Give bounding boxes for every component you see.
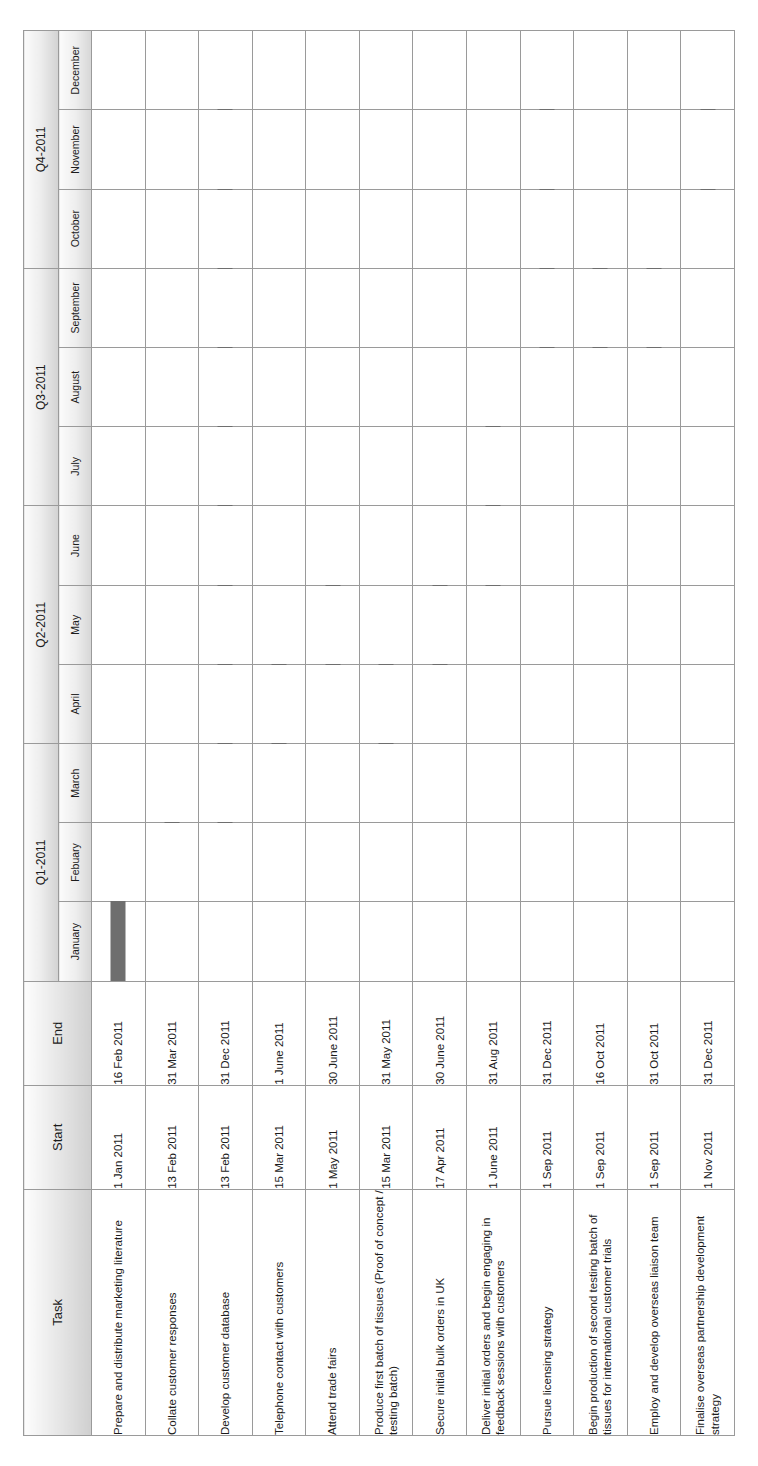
month-header-april: April	[59, 664, 92, 743]
table-row: Prepare and distribute marketing literat…	[92, 31, 146, 1436]
timeline-cell	[145, 902, 199, 981]
timeline-cell	[467, 189, 521, 268]
timeline-cell	[199, 268, 253, 347]
timeline-cell	[145, 427, 199, 506]
cell-task-name: Collate customer responses	[145, 1189, 199, 1435]
timeline-cell	[199, 664, 253, 743]
timeline-cell	[92, 744, 146, 823]
gantt-chart-table: Task Start End Q1-2011Q2-2011Q3-2011Q4-2…	[23, 30, 735, 1436]
timeline-cell	[199, 823, 253, 902]
month-header-march: March	[59, 744, 92, 823]
timeline-cell	[306, 585, 360, 664]
quarter-header-2: Q2-2011	[24, 506, 59, 744]
timeline-cell	[252, 189, 306, 268]
timeline-cell	[413, 823, 467, 902]
month-header-november: November	[59, 110, 92, 189]
timeline-cell	[627, 902, 681, 981]
timeline-cell	[627, 189, 681, 268]
timeline-cell	[627, 348, 681, 427]
timeline-cell	[252, 902, 306, 981]
timeline-cell	[252, 506, 306, 585]
month-header-june: June	[59, 506, 92, 585]
table-row: Begin production of second testing batch…	[574, 31, 628, 1436]
timeline-cell	[199, 189, 253, 268]
timeline-cell	[92, 585, 146, 664]
timeline-cell	[252, 31, 306, 110]
timeline-cell	[252, 744, 306, 823]
timeline-cell	[520, 31, 574, 110]
timeline-cell	[92, 189, 146, 268]
timeline-cell	[92, 902, 146, 981]
timeline-cell	[627, 268, 681, 347]
timeline-cell	[413, 110, 467, 189]
timeline-cell	[252, 427, 306, 506]
timeline-cell	[252, 585, 306, 664]
timeline-cell	[359, 427, 413, 506]
timeline-cell	[681, 268, 735, 347]
timeline-cell	[199, 585, 253, 664]
timeline-cell	[520, 902, 574, 981]
timeline-cell	[306, 189, 360, 268]
cell-end-date: 30 June 2011	[413, 981, 467, 1085]
timeline-cell	[413, 506, 467, 585]
timeline-cell	[574, 823, 628, 902]
timeline-cell	[199, 744, 253, 823]
table-row: Employ and develop overseas liaison team…	[627, 31, 681, 1436]
timeline-cell	[306, 31, 360, 110]
cell-task-name: Begin production of second testing batch…	[574, 1189, 628, 1435]
timeline-cell	[681, 744, 735, 823]
cell-start-date: 1 Sep 2011	[627, 1085, 681, 1189]
timeline-cell	[145, 189, 199, 268]
cell-start-date: 1 May 2011	[306, 1085, 360, 1189]
timeline-cell	[520, 506, 574, 585]
timeline-cell	[574, 902, 628, 981]
cell-end-date: 31 Oct 2011	[627, 981, 681, 1085]
timeline-cell	[199, 348, 253, 427]
cell-end-date: 16 Oct 2011	[574, 981, 628, 1085]
timeline-cell	[520, 664, 574, 743]
timeline-cell	[627, 744, 681, 823]
timeline-cell	[467, 427, 521, 506]
timeline-cell	[627, 664, 681, 743]
cell-end-date: 31 Dec 2011	[199, 981, 253, 1085]
timeline-cell	[467, 664, 521, 743]
cell-start-date: 1 Jan 2011	[92, 1085, 146, 1189]
timeline-cell	[359, 348, 413, 427]
timeline-cell	[145, 664, 199, 743]
cell-end-date: 1 June 2011	[252, 981, 306, 1085]
timeline-cell	[681, 189, 735, 268]
quarter-header-1: Q1-2011	[24, 744, 59, 982]
timeline-cell	[145, 744, 199, 823]
timeline-cell	[306, 268, 360, 347]
timeline-cell	[574, 585, 628, 664]
timeline-cell	[520, 110, 574, 189]
timeline-cell	[627, 823, 681, 902]
timeline-cell	[574, 348, 628, 427]
timeline-cell	[413, 585, 467, 664]
month-header-may: May	[59, 585, 92, 664]
cell-start-date: 1 Nov 2011	[681, 1085, 735, 1189]
timeline-cell	[627, 110, 681, 189]
timeline-cell	[359, 902, 413, 981]
timeline-cell	[306, 823, 360, 902]
cell-end-date: 31 May 2011	[359, 981, 413, 1085]
timeline-cell	[681, 110, 735, 189]
timeline-cell	[467, 110, 521, 189]
timeline-cell	[92, 110, 146, 189]
timeline-cell	[627, 427, 681, 506]
timeline-cell	[92, 348, 146, 427]
timeline-cell	[252, 664, 306, 743]
header-row-quarters: Task Start End Q1-2011Q2-2011Q3-2011Q4-2…	[24, 31, 59, 1436]
timeline-cell	[145, 823, 199, 902]
timeline-cell	[145, 348, 199, 427]
month-header-febuary: Febuary	[59, 823, 92, 902]
timeline-cell	[92, 506, 146, 585]
timeline-cell	[306, 744, 360, 823]
timeline-cell	[199, 110, 253, 189]
timeline-cell	[574, 427, 628, 506]
quarter-header-4: Q4-2011	[24, 31, 59, 269]
cell-end-date: 31 Dec 2011	[520, 981, 574, 1085]
cell-start-date: 13 Feb 2011	[145, 1085, 199, 1189]
timeline-cell	[145, 585, 199, 664]
timeline-cell	[520, 744, 574, 823]
